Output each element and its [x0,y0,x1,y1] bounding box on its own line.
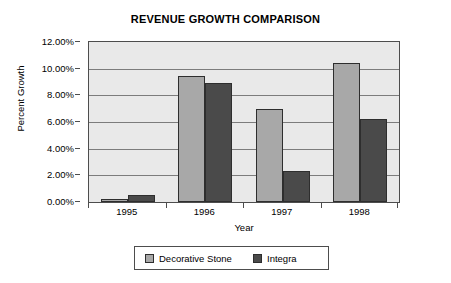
x-tick-label: 1995 [116,206,137,217]
revenue-growth-chart: REVENUE GROWTH COMPARISON Percent Growth… [0,0,451,283]
bar-decorative-stone-1997 [256,109,283,202]
legend-label: Integra [267,253,297,264]
legend-entry: Decorative Stone [145,247,232,269]
bar-decorative-stone-1995 [101,199,128,202]
y-tick-label: 2.00% [47,169,74,180]
x-axis-tick-labels: 1995199619971998 [88,206,400,222]
x-tick-label: 1996 [194,206,215,217]
chart-title: REVENUE GROWTH COMPARISON [0,13,451,25]
chart-legend: Decorative StoneIntegra [134,246,329,270]
x-tick-label: 1997 [271,206,292,217]
y-tick-label: 8.00% [47,89,74,100]
y-tick-label: 10.00% [42,62,74,73]
y-tick-label: 6.00% [47,116,74,127]
x-axis-title: Year [88,222,400,233]
bar-decorative-stone-1996 [178,76,205,202]
y-tick-mark [75,121,80,122]
y-axis-tick-labels: 0.00%2.00%4.00%6.00%8.00%10.00%12.00% [18,41,80,203]
bar-integra-1998 [360,119,387,202]
y-tick-mark [75,201,80,202]
y-tick-mark [75,41,80,42]
bar-integra-1996 [205,83,232,202]
y-tick-mark [75,174,80,175]
legend-label: Decorative Stone [159,253,232,264]
y-tick-mark [75,68,80,69]
y-tick-label: 0.00% [47,196,74,207]
legend-entry: Integra [253,247,297,269]
bar-integra-1997 [283,171,310,202]
y-tick-mark [75,148,80,149]
plot-area [88,41,400,203]
y-tick-mark [75,94,80,95]
y-tick-label: 4.00% [47,142,74,153]
legend-swatch-icon [253,254,262,263]
x-tick-label: 1998 [349,206,370,217]
bar-decorative-stone-1998 [333,63,360,202]
bar-integra-1995 [128,195,155,202]
legend-swatch-icon [145,254,154,263]
y-tick-label: 12.00% [42,36,74,47]
